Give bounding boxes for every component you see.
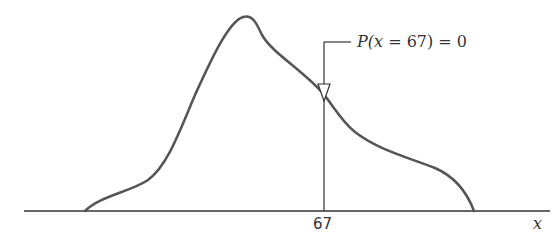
density-diagram [0,0,557,246]
callout-prefix: P( [357,32,374,51]
callout-variable: x [374,32,383,51]
probability-callout-label: P(x = 67) = 0 [357,32,467,51]
x-axis-label: x [533,214,542,233]
callout-rest: = 67) = 0 [383,32,467,51]
x-tick-label-67: 67 [313,215,332,233]
